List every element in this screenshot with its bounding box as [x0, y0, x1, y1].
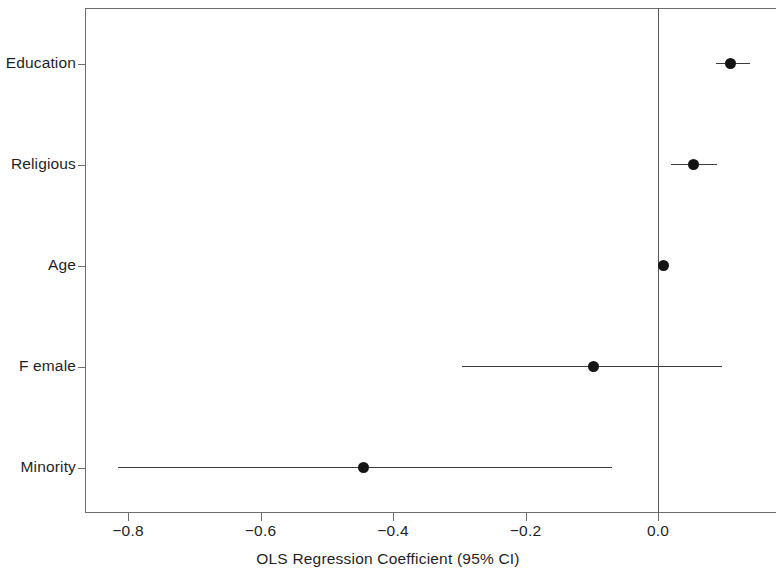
x-tick-label: −0.4	[377, 522, 408, 540]
y-tick-label-religious: Religious	[0, 155, 76, 173]
y-axis-tick	[78, 64, 85, 65]
point-estimate-marker	[658, 260, 669, 271]
x-tick-label: −0.2	[510, 522, 541, 540]
x-tick-label: −0.6	[245, 522, 276, 540]
x-axis-tick	[128, 513, 129, 521]
y-tick-label-age: Age	[0, 256, 76, 274]
point-estimate-marker	[725, 58, 736, 69]
x-axis-tick	[393, 513, 394, 521]
forest-plot-figure: EducationReligiousAgeF emaleMinority −0.…	[0, 0, 776, 577]
y-axis-tick	[78, 165, 85, 166]
x-axis-tick	[658, 513, 659, 521]
plot-area	[85, 8, 776, 513]
x-axis-tick	[526, 513, 527, 521]
x-tick-label: −0.8	[112, 522, 143, 540]
y-axis-tick	[78, 266, 85, 267]
y-tick-label-minority: Minority	[0, 458, 76, 476]
x-axis-title: OLS Regression Coefficient (95% CI)	[0, 550, 776, 568]
x-axis-tick	[261, 513, 262, 521]
x-tick-label: 0.0	[647, 522, 669, 540]
point-estimate-marker	[358, 462, 369, 473]
y-axis-tick	[78, 468, 85, 469]
y-tick-label-education: Education	[0, 54, 76, 72]
y-tick-label-female: F emale	[0, 357, 76, 375]
point-estimate-marker	[688, 159, 699, 170]
y-axis-tick	[78, 367, 85, 368]
point-estimate-marker	[588, 361, 599, 372]
